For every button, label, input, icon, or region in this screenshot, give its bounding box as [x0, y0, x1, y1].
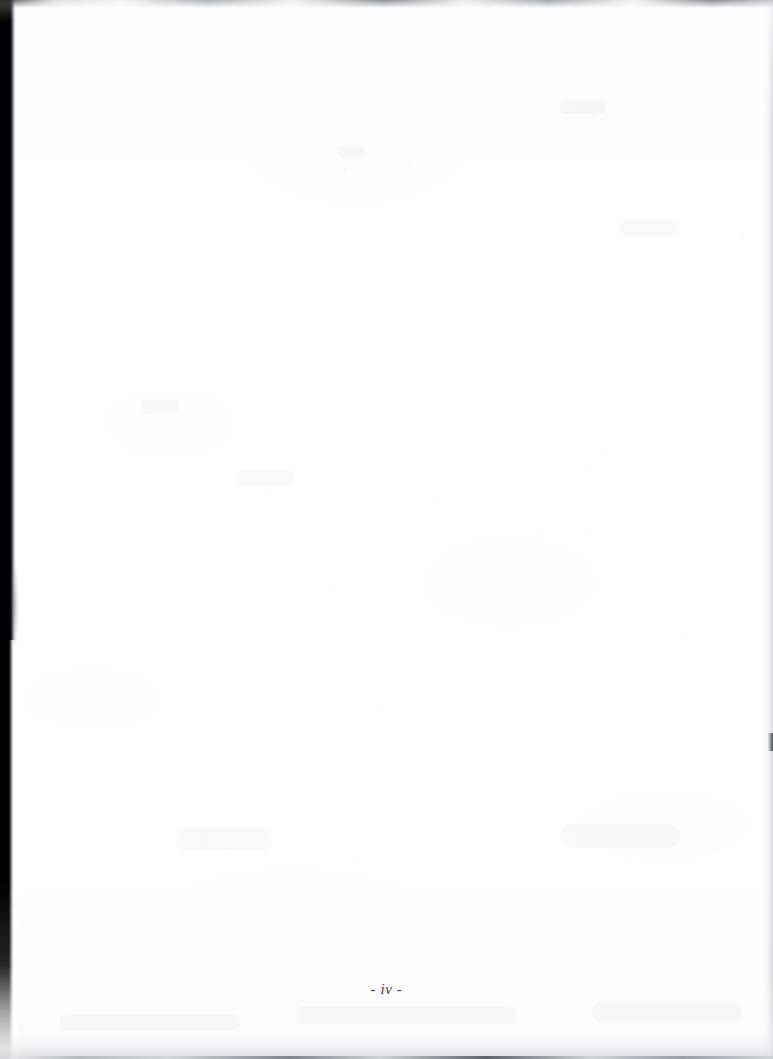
right-edge-shading: [763, 0, 773, 1059]
scanned-page: - iv -: [0, 0, 773, 1059]
bottom-edge-shading: [0, 1017, 773, 1059]
right-edge-mark: [768, 733, 773, 751]
top-edge-strip: [0, 0, 773, 8]
page-number: - iv -: [0, 982, 773, 997]
scan-speckle-noise: [0, 0, 773, 1059]
left-gutter-smudge: [12, 548, 21, 664]
